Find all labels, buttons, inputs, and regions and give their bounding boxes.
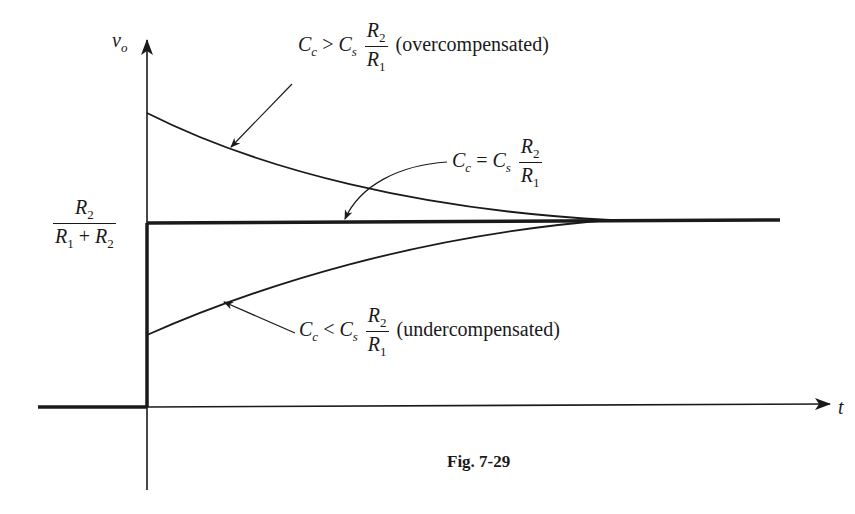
lhs-symbol: C (452, 149, 465, 171)
frac-den: R (521, 164, 533, 186)
curve-exact-compensation (147, 220, 780, 223)
label-undercompensated: Cc < Cs R2 R1 (undercompensated) (299, 305, 560, 358)
note-undercompensated: (undercompensated) (397, 318, 560, 340)
note-overcompensated: (overcompensated) (396, 33, 549, 55)
rhs-symbol: C (338, 33, 351, 55)
num-symbol: R (75, 196, 87, 218)
lhs-subscript: c (312, 329, 318, 344)
y-axis-symbol: v (112, 29, 121, 51)
frac-num: R (367, 19, 379, 41)
den-b-subscript: 2 (107, 236, 114, 251)
lhs-subscript: c (311, 44, 317, 59)
den-a-symbol: R (55, 225, 67, 247)
frac-den-sub: 1 (380, 344, 387, 359)
frac-num-sub: 2 (380, 315, 387, 330)
frac-num-sub: 2 (379, 30, 386, 45)
y-axis-subscript: o (121, 40, 128, 55)
rhs-subscript: s (352, 44, 357, 59)
label-overcompensated: Cc > Cs R2 R1 (overcompensated) (298, 20, 549, 73)
final-value-label: R2 R1 + R2 (50, 197, 119, 250)
relation: > (322, 33, 333, 55)
rhs-subscript: s (353, 329, 358, 344)
frac-num: R (368, 304, 380, 326)
arrow-exact (345, 162, 447, 219)
lhs-subscript: c (465, 160, 471, 175)
frac-den-sub: 1 (379, 59, 386, 74)
rhs-symbol: C (492, 149, 505, 171)
step-response-plot (0, 0, 855, 514)
y-axis-label: vo (112, 30, 127, 54)
frac-num: R (521, 135, 533, 157)
frac-den: R (368, 333, 380, 355)
frac-den-sub: 1 (533, 175, 540, 190)
lhs-symbol: C (299, 318, 312, 340)
relation: = (476, 149, 487, 171)
figure-caption: Fig. 7-29 (447, 452, 510, 472)
arrow-overcompensated (231, 84, 292, 147)
frac-num-sub: 2 (533, 146, 540, 161)
den-b-symbol: R (95, 225, 107, 247)
plus-sign: + (79, 225, 90, 247)
frac-den: R (367, 48, 379, 70)
x-axis-label: t (838, 397, 844, 417)
rhs-subscript: s (506, 160, 511, 175)
relation: < (323, 318, 334, 340)
arrow-undercompensated (224, 302, 295, 333)
x-axis (38, 404, 830, 407)
num-subscript: 2 (87, 207, 94, 222)
lhs-symbol: C (298, 33, 311, 55)
label-exact-compensation: Cc = Cs R2 R1 (452, 136, 545, 189)
den-a-subscript: 1 (67, 236, 74, 251)
rhs-symbol: C (339, 318, 352, 340)
